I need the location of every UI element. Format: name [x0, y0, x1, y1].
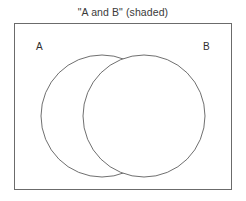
set-b-label: B	[203, 41, 210, 52]
set-a-label: A	[36, 41, 43, 52]
venn-diagram-canvas: A B	[0, 0, 246, 201]
venn-diagram-page: "A and B" (shaded) A B	[0, 0, 246, 201]
set-b-circle	[83, 55, 205, 177]
